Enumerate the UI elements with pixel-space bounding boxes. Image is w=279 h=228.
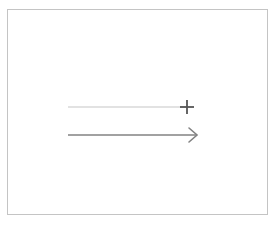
shape-layer xyxy=(8,10,267,214)
clipped-top-text-strip: — · —— ——— ·· —— — xyxy=(0,0,279,6)
clipped-top-text: — · —— ——— ·· —— — xyxy=(4,0,152,2)
crosshair-cursor-icon[interactable] xyxy=(180,100,194,114)
canvas-svg xyxy=(8,10,269,216)
drawing-canvas[interactable] xyxy=(7,9,268,215)
arrow-connector[interactable] xyxy=(68,128,197,142)
